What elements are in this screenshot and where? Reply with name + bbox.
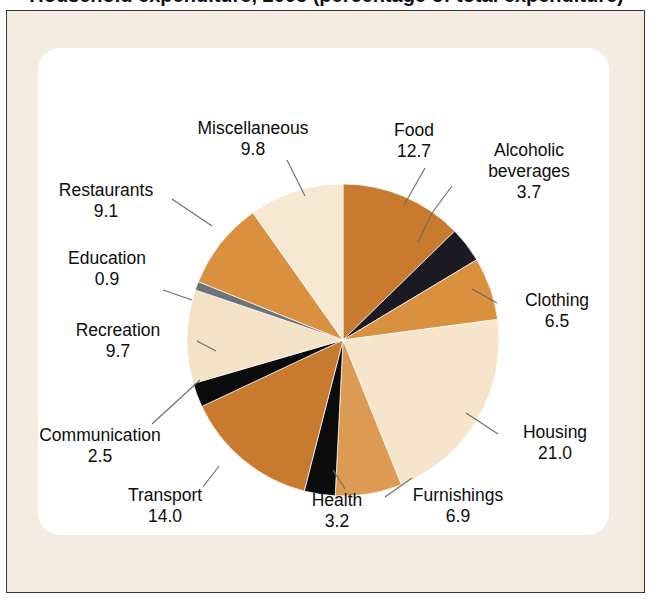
leader-line-food <box>404 168 425 205</box>
slice-label-recreation-value: 9.7 <box>58 341 178 362</box>
slice-label-furnishings: Furnishings 6.9 <box>391 485 525 527</box>
slice-label-clothing-name: Clothing <box>503 290 611 311</box>
slice-label-furnishings-value: 6.9 <box>391 506 525 527</box>
leader-line-misc <box>287 160 305 196</box>
slice-label-recreation-name: Recreation <box>58 320 178 341</box>
slice-label-communication-name: Communication <box>26 425 174 446</box>
slice-label-housing: Housing 21.0 <box>503 422 607 464</box>
slice-label-health-value: 3.2 <box>292 511 382 532</box>
slice-label-restaurants-value: 9.1 <box>40 201 172 222</box>
slice-label-furnishings-name: Furnishings <box>391 485 525 506</box>
slice-label-health: Health 3.2 <box>292 490 382 532</box>
slice-label-communication-value: 2.5 <box>26 446 174 467</box>
slice-label-health-name: Health <box>292 490 382 511</box>
slice-label-education: Education 0.9 <box>52 248 162 290</box>
slice-label-alcoholic-name: Alcoholic <box>459 140 599 161</box>
slice-label-housing-name: Housing <box>503 422 607 443</box>
slice-label-food-value: 12.7 <box>374 141 454 162</box>
slice-label-communication: Communication 2.5 <box>26 425 174 467</box>
slice-label-clothing: Clothing 6.5 <box>503 290 611 332</box>
slice-label-miscellaneous: Miscellaneous 9.8 <box>172 118 334 160</box>
slice-label-transport: Transport 14.0 <box>110 485 220 527</box>
leader-line-restaurants <box>172 199 212 226</box>
slice-label-transport-value: 14.0 <box>110 506 220 527</box>
slice-label-housing-value: 21.0 <box>503 443 607 464</box>
slice-label-restaurants-name: Restaurants <box>40 180 172 201</box>
leader-line-communication <box>152 380 200 424</box>
leader-line-education <box>163 290 192 300</box>
slice-label-transport-name: Transport <box>110 485 220 506</box>
slice-label-restaurants: Restaurants 9.1 <box>40 180 172 222</box>
slice-label-misc-name: Miscellaneous <box>172 118 334 139</box>
pie-chart-figure: Household expenditure, 2005 (percentage … <box>0 0 653 599</box>
slice-label-food-name: Food <box>374 120 454 141</box>
slice-label-misc-value: 9.8 <box>172 139 334 160</box>
slice-label-clothing-value: 6.5 <box>503 311 611 332</box>
slice-label-alcoholic-value: 3.7 <box>459 182 599 203</box>
slice-label-education-value: 0.9 <box>52 269 162 290</box>
slice-label-education-name: Education <box>52 248 162 269</box>
slice-label-alcoholic-name2: beverages <box>459 161 599 182</box>
pie-slices-group <box>187 184 499 496</box>
slice-label-alcoholic-beverages: Alcoholic beverages 3.7 <box>459 140 599 203</box>
slice-label-food: Food 12.7 <box>374 120 454 162</box>
slice-label-recreation: Recreation 9.7 <box>58 320 178 362</box>
leader-line-transport <box>203 466 219 487</box>
